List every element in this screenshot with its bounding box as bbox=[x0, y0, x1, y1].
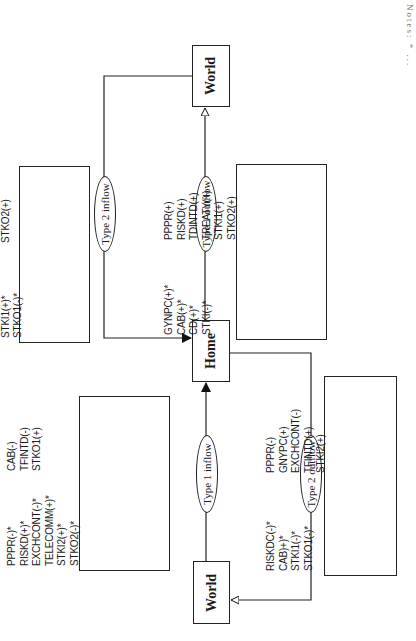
type1-outflow-variables: GYNPC(+)* CAB(+)* CD(+)* STKI(-)* PPPR(+… bbox=[236, 164, 327, 340]
type2-outflow-variables: RISKDC(-)* CAB)+)* STKI1(-)* STKO1(-)* P… bbox=[324, 376, 397, 576]
type1-outflow-col2: PPPR(+) RISKD(+) TDINTD(+) TREATY(+) STK… bbox=[163, 191, 243, 240]
world-node-bottom-label: World bbox=[204, 573, 220, 611]
home-node-label: Home bbox=[203, 333, 219, 369]
type1-inflow-variables: PPPR(-)* RISKD(+)* EXCHCONT(-)* TELECOMM… bbox=[79, 396, 170, 571]
type2-inflow-label: Type 2 inflow bbox=[94, 176, 116, 252]
world-node-top: World bbox=[192, 45, 230, 107]
figure-caption-partial: Notes: * ... bbox=[405, 4, 415, 67]
type2-inflow-variables: PPPR(-)* CAB(-)* TELECOMM(+)* STKI1(+)* … bbox=[19, 166, 90, 343]
type2-outflow-col2: PPPR(-) GNYPC(+) EXCHCONT(-) TFINTD(+) S… bbox=[265, 409, 331, 473]
type2-outflow-col1: RISKDC(-)* CAB)+)* STKI1(-)* STKO1(-)* bbox=[265, 473, 331, 571]
flow-diagram: World Home World Type 2 inflow Type 1 ou… bbox=[0, 0, 416, 641]
type2-inflow-col2: RISKDC(+) TDINTD(+) TREATY(+) STKO2(+) bbox=[0, 194, 26, 243]
type1-outflow-col1: GYNPC(+)* CAB(+)* CD(+)* STKI(-)* bbox=[163, 240, 243, 335]
world-node-top-label: World bbox=[203, 57, 219, 95]
type1-inflow-label: Type 1 inflow bbox=[196, 435, 218, 513]
type2-inflow-col1: PPPR(-)* CAB(-)* TELECOMM(+)* STKI1(+)* … bbox=[0, 243, 26, 338]
type1-inflow-col1: PPPR(-)* RISKD(+)* EXCHCONT(-)* TELECOMM… bbox=[6, 471, 86, 566]
type1-inflow-col2: CAB(-) TFINTD(-) STKO1(+) bbox=[6, 427, 86, 471]
world-node-bottom: World bbox=[193, 561, 230, 624]
